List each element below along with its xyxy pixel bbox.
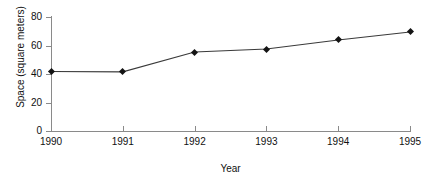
x-tick-label: 1991 bbox=[103, 136, 143, 148]
x-tick bbox=[123, 126, 124, 131]
y-tick bbox=[46, 131, 51, 132]
y-tick-label: 60 bbox=[24, 41, 42, 51]
y-tick bbox=[46, 17, 51, 18]
series-line-space bbox=[0, 0, 424, 186]
x-tick-label: 1990 bbox=[31, 136, 71, 148]
data-point-marker bbox=[191, 49, 198, 56]
y-tick-label: 0 bbox=[24, 126, 42, 136]
x-tick bbox=[338, 126, 339, 131]
x-tick-label: 1992 bbox=[175, 136, 215, 148]
data-point-marker bbox=[119, 68, 126, 75]
y-tick bbox=[46, 103, 51, 104]
x-tick-label: 1994 bbox=[318, 136, 358, 148]
x-axis-line bbox=[51, 131, 411, 132]
y-tick-label: 80 bbox=[24, 12, 42, 22]
x-tick bbox=[410, 126, 411, 131]
x-tick-label: 1993 bbox=[246, 136, 286, 148]
data-point-marker bbox=[406, 28, 413, 35]
line-chart: Space (square meters) 020406080 19901991… bbox=[0, 0, 424, 186]
x-tick-label: 1995 bbox=[390, 136, 424, 148]
y-tick bbox=[46, 46, 51, 47]
y-tick-label: 40 bbox=[24, 69, 42, 79]
data-point-marker bbox=[263, 46, 270, 53]
x-tick bbox=[266, 126, 267, 131]
data-point-marker bbox=[335, 36, 342, 43]
x-axis-title: Year bbox=[51, 163, 410, 174]
y-tick-label: 20 bbox=[24, 98, 42, 108]
x-tick bbox=[51, 126, 52, 131]
x-tick bbox=[195, 126, 196, 131]
